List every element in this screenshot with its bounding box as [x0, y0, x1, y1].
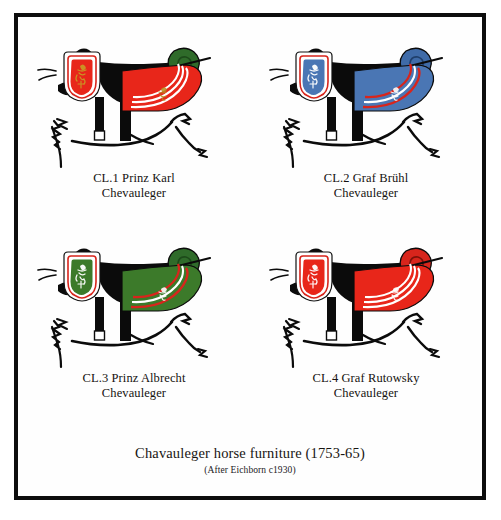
shabraque-cl4	[354, 264, 434, 311]
chest-piece-cl3	[64, 252, 100, 301]
figure-caption-cl2: CL.2 Graf Brühl Chevauleger	[324, 171, 408, 202]
figure-caption-line2-cl3: Chevauleger	[83, 386, 186, 401]
figure-caption-cl3: CL.3 Prinz Albrecht Chevauleger	[83, 371, 186, 402]
figure-caption-cl1: CL.1 Prinz Karl Chevauleger	[93, 171, 175, 202]
figure-caption-line2-cl1: Chevauleger	[93, 186, 175, 201]
figure-caption-line1-cl4: CL.4 Graf Rutowsky	[312, 371, 419, 386]
horse-figure-cl4	[260, 223, 472, 375]
figure-cell-cl2: CL.2 Graf Brühl Chevauleger	[250, 23, 482, 223]
plate-title-block: Chavauleger horse furniture (1753-65) (A…	[18, 445, 482, 475]
chest-piece-cl1	[64, 52, 100, 101]
figure-caption-line1-cl2: CL.2 Graf Brühl	[324, 171, 408, 186]
horse-figure-cl2	[260, 23, 472, 175]
plate-title: Chavauleger horse furniture (1753-65)	[18, 445, 482, 462]
plate-subtitle: (After Eichborn c1930)	[18, 465, 482, 475]
horse-figure-cl1	[28, 23, 240, 175]
figure-grid: CL.1 Prinz Karl Chevauleger	[18, 23, 482, 423]
shabraque-cl3	[122, 264, 202, 311]
figure-caption-line1-cl1: CL.1 Prinz Karl	[93, 171, 175, 186]
shabraque-cl2	[354, 64, 434, 111]
chest-piece-cl4	[296, 252, 332, 301]
figure-cell-cl1: CL.1 Prinz Karl Chevauleger	[18, 23, 250, 223]
illustration-plate: CL.1 Prinz Karl Chevauleger	[0, 0, 501, 520]
chest-piece-cl2	[296, 52, 332, 101]
plate-frame-border: CL.1 Prinz Karl Chevauleger	[14, 13, 486, 500]
plate-inner-area: CL.1 Prinz Karl Chevauleger	[18, 17, 482, 496]
horse-figure-cl3	[28, 223, 240, 375]
figure-cell-cl3: CL.3 Prinz Albrecht Chevauleger	[18, 223, 250, 423]
figure-caption-cl4: CL.4 Graf Rutowsky Chevauleger	[312, 371, 419, 402]
figure-caption-line2-cl2: Chevauleger	[324, 186, 408, 201]
shabraque-cl1	[122, 64, 202, 111]
figure-cell-cl4: CL.4 Graf Rutowsky Chevauleger	[250, 223, 482, 423]
figure-caption-line2-cl4: Chevauleger	[312, 386, 419, 401]
figure-caption-line1-cl3: CL.3 Prinz Albrecht	[83, 371, 186, 386]
